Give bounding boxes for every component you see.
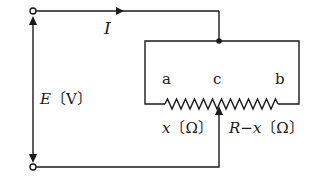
emf-symbol: E xyxy=(40,90,51,108)
bottom-terminal-icon xyxy=(30,164,36,170)
resistance-right-label: R−x〔Ω〕 xyxy=(229,121,304,136)
emf-unit: 〔V〕 xyxy=(51,90,92,108)
emf-up-arrow-icon xyxy=(29,16,37,25)
emf-down-arrow-icon xyxy=(29,154,37,163)
current-label: I xyxy=(104,20,111,37)
node-a-label: a xyxy=(162,72,171,87)
circuit-diagram: I E〔V〕 a c b x〔Ω〕 R−x〔Ω〕 xyxy=(0,0,326,181)
emf-label: E〔V〕 xyxy=(40,92,92,107)
junction-dot-icon xyxy=(216,38,222,44)
resistor-zigzag xyxy=(165,99,278,109)
node-c-label: c xyxy=(213,72,221,87)
resistance-left-label: x〔Ω〕 xyxy=(162,121,213,136)
node-b-label: b xyxy=(275,72,285,87)
current-arrow-icon xyxy=(116,7,124,15)
top-terminal-icon xyxy=(30,8,36,14)
